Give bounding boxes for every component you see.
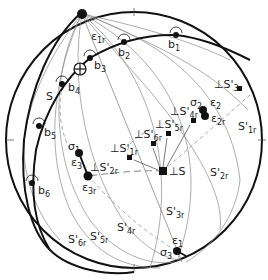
svg-text:σ2: σ2 — [190, 96, 202, 111]
svg-text:⊥S'2r: ⊥S'2r — [90, 161, 119, 176]
eps1r-point — [77, 9, 87, 19]
svg-text:b4: b4 — [68, 81, 80, 96]
great-circle — [82, 12, 248, 110]
svg-text:b5: b5 — [44, 126, 56, 141]
svg-text:σ1: σ1 — [68, 140, 80, 155]
svg-text:S'3r: S'3r — [166, 205, 185, 220]
svg-text:⊥S'3r: ⊥S'3r — [214, 78, 243, 93]
label-eps1r: ε1r — [91, 30, 106, 45]
svg-text:S: S — [46, 90, 53, 103]
svg-text:ε1: ε1 — [172, 234, 183, 249]
svg-text:⊥S: ⊥S — [169, 165, 186, 178]
svg-text:b2: b2 — [118, 46, 130, 61]
svg-text:ε2r: ε2r — [211, 112, 226, 127]
svg-text:b3: b3 — [94, 59, 106, 74]
great-circle-thick-2 — [23, 12, 82, 250]
svg-text:S'6r: S'6r — [68, 233, 87, 248]
svg-text:S'4r: S'4r — [117, 221, 136, 236]
svg-text:S'2r: S'2r — [210, 166, 229, 181]
svg-text:b6: b6 — [38, 184, 50, 199]
great-circle-S2r — [82, 14, 221, 230]
svg-text:S'1r: S'1r — [238, 120, 257, 135]
eps2r-point — [201, 112, 209, 120]
stereonet-diagram: ε1r b1 b2 b3 b4 b5 b6 S σ1 ε3 ε3r ⊥S'2r … — [0, 0, 268, 280]
svg-text:⊥S'5r: ⊥S'5r — [155, 118, 184, 133]
svg-text:ε2: ε2 — [210, 96, 221, 111]
svg-text:σ3: σ3 — [160, 246, 172, 261]
svg-text:S'5r: S'5r — [90, 230, 109, 245]
pole-cross-icon — [74, 63, 86, 75]
perpS-pole — [159, 167, 167, 175]
perpS5r-pole — [166, 131, 171, 136]
svg-text:b1: b1 — [168, 38, 180, 53]
